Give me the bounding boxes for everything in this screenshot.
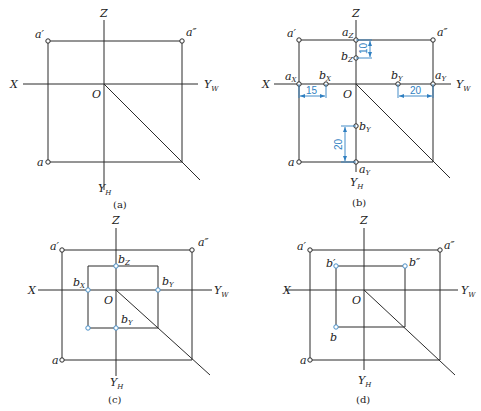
label-a-dprime: a″ (444, 239, 456, 252)
label-o: O (352, 294, 361, 307)
label-yw: YW (461, 284, 476, 299)
label-bz: bZ (341, 50, 353, 64)
point-b-corner (86, 326, 90, 330)
label-a-prime: a′ (297, 240, 307, 253)
point-a-dprime (438, 248, 442, 252)
label-a-prime: a′ (35, 28, 45, 41)
label-a-dprime: a″ (437, 26, 449, 39)
label-yw: YW (214, 284, 229, 299)
label-x: X (261, 78, 271, 91)
diagram-d: Z X O YW YH a′ a″ a b′ b″ b (d) (282, 214, 476, 405)
diagonal-45 (104, 84, 200, 180)
label-a-dprime: a″ (198, 236, 210, 249)
caption-d: (d) (356, 394, 370, 405)
point-byw (156, 288, 160, 292)
point-a-dprime (180, 39, 184, 43)
label-o: O (343, 88, 352, 101)
caption-a: (a) (113, 199, 127, 210)
label-a-prime: a′ (50, 240, 60, 253)
point-a-prime (60, 248, 64, 252)
label-a: a (37, 156, 44, 169)
point-a-prime (297, 38, 301, 42)
point-a (46, 160, 50, 164)
label-byh: bY (359, 120, 372, 134)
label-yw: YW (204, 78, 219, 93)
diagram-a: Z X O YW YH a′ a″ a (a) (9, 7, 219, 210)
label-byw: bY (162, 275, 175, 289)
label-o: O (104, 294, 113, 307)
label-b-dprime: b″ (409, 256, 421, 269)
point-a-prime (46, 39, 50, 43)
label-x: X (27, 284, 37, 297)
dimension-20-yh: 20 (333, 126, 356, 162)
dimension-20-yw: 20 (398, 84, 433, 98)
point-a-prime (308, 248, 312, 252)
label-a: a (52, 354, 59, 367)
point-bx (86, 288, 90, 292)
label-yh: YH (350, 176, 364, 191)
svg-text:15: 15 (306, 85, 318, 96)
label-o: O (92, 88, 101, 101)
label-x: X (9, 78, 19, 91)
label-z: Z (111, 214, 120, 227)
label-bx: bX (73, 276, 86, 290)
point-b-dprime (403, 264, 407, 268)
diagonal-45 (364, 290, 455, 375)
label-a-prime: a′ (287, 27, 297, 40)
label-byw: bY (391, 69, 404, 83)
label-b: b (330, 331, 337, 344)
projection-diagrams: Z X O YW YH a′ a″ a (a) (0, 0, 481, 411)
diagram-b: 10 15 20 20 Z X O YW (261, 7, 471, 208)
label-a: a (300, 354, 307, 367)
point-a (60, 358, 64, 362)
svg-text:10: 10 (358, 42, 369, 54)
label-ayh: aY (359, 163, 372, 177)
point-byh (114, 326, 118, 330)
caption-c: (c) (108, 394, 122, 405)
label-ayw: aY (435, 69, 448, 83)
label-yw: YW (456, 78, 471, 93)
label-a-dprime: a″ (186, 26, 198, 39)
label-ax: aX (285, 70, 298, 84)
label-z: Z (359, 214, 368, 227)
caption-b: (b) (352, 197, 366, 208)
label-yh: YH (110, 376, 124, 391)
point-a (308, 358, 312, 362)
point-a (297, 160, 301, 164)
dimension-15: 15 (299, 84, 326, 98)
label-z: Z (351, 7, 360, 20)
point-b (334, 325, 338, 329)
label-x: X (282, 284, 292, 297)
point-a-dprime (431, 38, 435, 42)
label-byh: bY (121, 313, 134, 327)
svg-text:20: 20 (333, 138, 344, 150)
label-yh: YH (98, 182, 112, 197)
svg-text:20: 20 (410, 85, 422, 96)
label-az: aZ (342, 26, 354, 40)
label-b-prime: b′ (326, 257, 336, 270)
label-bx: bX (319, 69, 332, 83)
dimension-10: 10 (356, 40, 372, 58)
point-a-dprime (190, 248, 194, 252)
diagonal-45 (116, 290, 210, 375)
diagram-c: Z X O YW YH a′ a″ a bZ bX bY bY (c) (27, 214, 229, 405)
label-z: Z (99, 7, 108, 20)
label-bz: bZ (118, 253, 130, 267)
label-yh: YH (358, 374, 372, 389)
label-a: a (288, 156, 295, 169)
